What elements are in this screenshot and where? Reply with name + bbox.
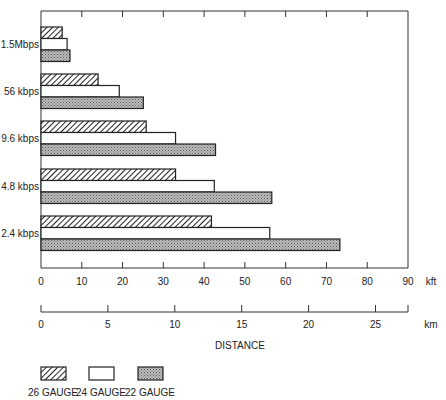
legend-item-24-gauge: 24 GAUGE [76,367,126,398]
bar-24-gauge [41,181,214,193]
bar-22-gauge [41,50,70,62]
kft-tick-label: 10 [76,276,88,287]
km-tick-label: 10 [169,319,181,330]
kft-tick-label: 70 [321,276,333,287]
bar-22-gauge [41,144,216,156]
legend-item-22-gauge: 22 GAUGE [125,367,175,398]
kft-unit-label: kft [426,276,437,287]
kft-tick-label: 50 [239,276,251,287]
category-labels: 1.5Mbps56 kbps9.6 kbps4.8 kbps2.4 kbps [1,39,39,239]
km-tick-label: 25 [370,319,382,330]
bar-26-gauge [41,169,176,181]
kft-tick-label: 90 [402,276,414,287]
bar-chart: 1.5Mbps56 kbps9.6 kbps4.8 kbps2.4 kbps 0… [0,0,446,400]
kft-tick-label: 40 [199,276,211,287]
bar-26-gauge [41,121,146,133]
legend-label: 22 GAUGE [125,387,175,398]
bar-24-gauge [41,39,67,51]
kft-tick-label: 80 [362,276,374,287]
bars [41,27,340,251]
kft-tick-label: 60 [280,276,292,287]
km-axis: 0510152025km [38,305,437,330]
legend-swatch [41,367,66,380]
category-label: 4.8 kbps [1,181,39,192]
bar-22-gauge [41,97,143,109]
kft-tick-label: 0 [38,276,44,287]
kft-tick-label: 20 [117,276,129,287]
bar-24-gauge [41,228,270,240]
kft-tick-label: 30 [158,276,170,287]
legend-item-26-gauge: 26 GAUGE [28,367,78,398]
category-label: 56 kbps [4,86,39,97]
bar-24-gauge [41,86,119,98]
bar-24-gauge [41,133,176,145]
bar-26-gauge [41,74,98,86]
legend-label: 24 GAUGE [76,387,126,398]
legend-swatch [89,367,114,380]
category-label: 2.4 kbps [1,228,39,239]
legend: 26 GAUGE24 GAUGE22 GAUGE [28,367,175,398]
x-axis-title: DISTANCE [215,340,265,351]
km-tick-label: 0 [38,319,44,330]
category-label: 1.5Mbps [1,39,39,50]
kft-axis: 0102030405060708090kft [38,262,436,287]
legend-swatch [138,367,163,380]
km-unit-label: km [424,319,437,330]
category-label: 9.6 kbps [1,133,39,144]
top-ticks [82,11,367,17]
bar-26-gauge [41,27,62,39]
km-tick-label: 5 [105,319,111,330]
bar-22-gauge [41,192,272,204]
km-tick-label: 15 [236,319,248,330]
legend-label: 26 GAUGE [28,387,78,398]
bar-22-gauge [41,239,340,251]
bar-26-gauge [41,216,211,228]
km-tick-label: 20 [303,319,315,330]
